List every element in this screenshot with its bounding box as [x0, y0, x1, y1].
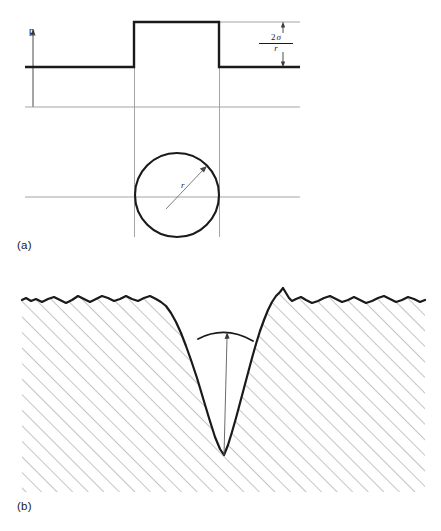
- panel-b-graphic: [22, 288, 425, 492]
- pressure-jump-numerator-value: 2: [271, 32, 276, 42]
- panel-a-label: (a): [17, 239, 32, 251]
- crack-radius-arrow: [224, 332, 230, 455]
- solid-hatching: [22, 288, 425, 492]
- radius-arrow: [166, 166, 207, 209]
- p-axis-label: p: [29, 25, 34, 36]
- figure-container: p 2σ r r (a) (b): [0, 0, 441, 531]
- pressure-jump-numerator: 2σ: [259, 33, 293, 44]
- pressure-jump-denominator: r: [259, 44, 293, 54]
- drop-circle: [135, 153, 219, 237]
- panel-b-label: (b): [17, 500, 32, 512]
- figure-canvas: [0, 0, 441, 531]
- sigma-symbol: σ: [276, 32, 281, 42]
- radius-label: r: [181, 180, 185, 190]
- pressure-jump-label: 2σ r: [259, 33, 293, 54]
